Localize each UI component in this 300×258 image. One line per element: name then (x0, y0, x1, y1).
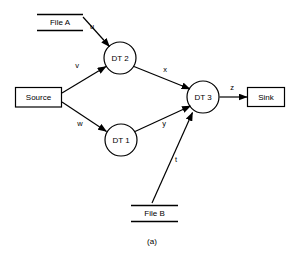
edge-u-label: u (90, 22, 94, 31)
figure-container: File A File B Source Sink DT 2 DT 1 (0, 0, 300, 258)
edge-u: u (83, 17, 110, 47)
edge-t: t (152, 113, 193, 204)
dataflow-diagram: File A File B Source Sink DT 2 DT 1 (0, 0, 300, 258)
edge-v: v (62, 61, 106, 93)
node-dt2: DT 2 (104, 42, 136, 74)
edge-x: x (134, 65, 190, 89)
edge-w-label: w (76, 119, 83, 128)
dt1-label: DT 1 (112, 136, 130, 145)
node-file-b: File B (131, 206, 178, 222)
edge-u-line (83, 17, 110, 47)
sink-label: Sink (258, 93, 275, 102)
edge-x-line (134, 67, 190, 90)
edge-z-label: z (230, 83, 234, 92)
dt3-label: DT 3 (194, 93, 212, 102)
node-file-a: File A (37, 15, 83, 31)
node-source: Source (16, 88, 62, 108)
edge-v-label: v (75, 61, 79, 70)
node-dt3: DT 3 (187, 81, 219, 113)
node-sink: Sink (248, 88, 285, 107)
edge-v-line (62, 67, 106, 94)
file-b-label: File B (144, 209, 164, 218)
edge-z: z (220, 83, 248, 97)
edge-w-line (62, 102, 107, 132)
edge-w: w (62, 102, 107, 132)
edge-t-line (152, 113, 193, 204)
source-label: Source (26, 93, 52, 102)
figure-caption: (a) (147, 237, 157, 246)
edge-y: y (135, 106, 191, 132)
edge-t-label: t (175, 155, 178, 164)
node-dt1: DT 1 (105, 124, 137, 156)
file-a-label: File A (50, 18, 71, 27)
dt2-label: DT 2 (111, 54, 129, 63)
edge-x-label: x (163, 65, 167, 74)
edge-y-label: y (162, 119, 166, 128)
